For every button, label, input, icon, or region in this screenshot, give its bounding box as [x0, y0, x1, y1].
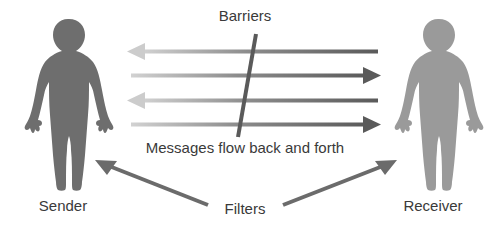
messages-flow-label: Messages flow back and forth [0, 140, 490, 155]
barriers-label: Barriers [0, 8, 490, 23]
sender-label: Sender [8, 198, 118, 213]
message-arrow-3-leftward [127, 92, 378, 109]
barrier-line [238, 34, 256, 137]
receiver-figure [395, 19, 484, 191]
message-arrow-4-rightward [131, 116, 381, 133]
message-arrow-2-rightward [131, 67, 381, 84]
communication-diagram: Barriers Messages flow back and forth Fi… [0, 0, 490, 234]
receiver-label: Receiver [378, 198, 488, 213]
